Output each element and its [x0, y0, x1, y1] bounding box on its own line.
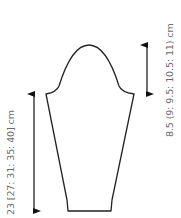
sleeve-outline	[46, 45, 134, 211]
sleeve-length-label: 23 [27: 31: 35: 40] cm	[5, 110, 16, 215]
cap-height-label: 8.5 (9: 9.5: 10.5: 11) cm	[164, 23, 175, 137]
sleeve-diagram	[0, 0, 181, 218]
